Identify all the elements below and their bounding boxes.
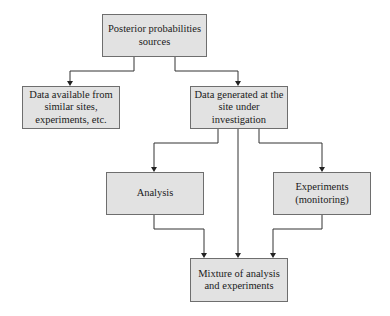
node-analysis: Analysis <box>106 172 204 215</box>
edge-root-to-similar-sites <box>70 57 134 82</box>
node-label: Mixture of analysis and experiments <box>198 268 280 293</box>
node-label: Posterior probabilities sources <box>108 23 201 48</box>
edge-analysis-to-mixture <box>154 215 204 254</box>
edge-site-data-to-experiments <box>259 129 322 168</box>
node-label: Data generated at the site under investi… <box>195 89 284 127</box>
node-label: Analysis <box>137 187 174 200</box>
node-label: Data available from similar sites, exper… <box>29 89 112 127</box>
node-posterior-probabilities-sources: Posterior probabilities sources <box>102 14 207 57</box>
node-data-generated-at-site: Data generated at the site under investi… <box>190 86 288 129</box>
node-label: Experiments (monitoring) <box>295 181 349 206</box>
edge-site-data-to-analysis <box>154 129 218 168</box>
edge-experiments-to-mixture <box>273 215 322 254</box>
node-mixture-of-analysis-and-experiments: Mixture of analysis and experiments <box>190 258 288 302</box>
edge-root-to-site-data <box>175 57 238 82</box>
node-data-from-similar-sites: Data available from similar sites, exper… <box>22 86 120 129</box>
node-experiments-monitoring: Experiments (monitoring) <box>273 172 371 215</box>
flowchart-diagram: Posterior probabilities sources Data ava… <box>0 0 390 316</box>
